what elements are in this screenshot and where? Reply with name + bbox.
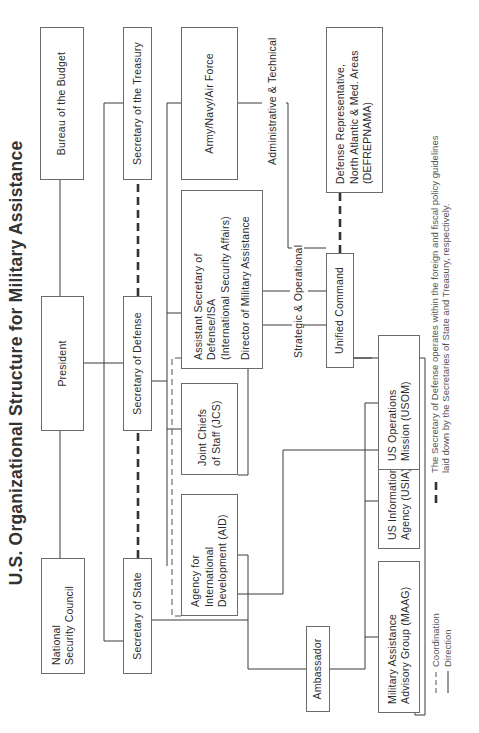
box-agency-for-international-development: Agency for International Development (AI…: [181, 494, 238, 616]
box-secretary-of-state: Secretary of State: [123, 558, 152, 674]
dash-coordination: [172, 358, 181, 616]
label-strategic-operational: Strategic & Operational: [292, 242, 304, 361]
box-president: President: [41, 296, 84, 431]
box-ambassador: Ambassador: [306, 626, 330, 712]
box-label: US Operations Mission (USOM): [386, 381, 413, 461]
box-label: Army/Navy/Air Force: [203, 53, 216, 154]
box-defrepnama: Defense Representative, North Atlantic &…: [326, 27, 383, 193]
box-label: Agency for International Development (AI…: [189, 514, 229, 607]
box-label: Military Assistance Advisory Group (MAAG…: [386, 587, 413, 704]
page-title: U.S. Organizational Structure for Milita…: [6, 103, 27, 623]
box-secretary-of-the-treasury: Secretary of the Treasury: [123, 27, 152, 180]
box-label: President: [56, 340, 69, 386]
legend-coordination: Coordination: [430, 613, 441, 667]
org-chart: U.S. Organizational Structure for Milita…: [0, 0, 479, 733]
box-label: Assistant Secretary of Defense/ISA (Inte…: [192, 216, 232, 360]
box-label: National Security Council: [50, 586, 77, 665]
box-assistant-secretary-of-defense-isa: Assistant Secretary of Defense/ISA (Inte…: [181, 190, 263, 369]
box-label: US Information Agency (USIA): [386, 467, 413, 540]
legend-direction: Direction: [442, 630, 453, 668]
box-joint-chiefs-of-staff: Joint Chiefs of Staff (JCS): [181, 383, 238, 475]
box-label: Ambassador: [311, 639, 324, 700]
box-label: Secretary of State: [131, 572, 144, 660]
box-secretary-of-defense: Secretary of Defense: [123, 296, 152, 431]
box-label-director-military-assistance: Director of Military Assistance: [239, 216, 252, 360]
legend-direction-label: Direction: [442, 630, 453, 668]
box-army-navy-air-force: Army/Navy/Air Force: [181, 27, 238, 180]
box-label: Joint Chiefs of Staff (JCS): [196, 400, 223, 466]
box-military-assistance-advisory-group: Military Assistance Advisory Group (MAAG…: [378, 561, 420, 713]
label-administrative-technical: Administrative & Technical: [266, 34, 278, 168]
box-bureau-of-the-budget: Bureau of the Budget: [40, 27, 84, 180]
box-us-operations-mission: US Operations Mission (USOM): [378, 335, 420, 470]
box-label: Unified Command: [333, 267, 346, 354]
box-label: Secretary of the Treasury: [131, 42, 144, 165]
box-national-security-council: National Security Council: [41, 558, 85, 674]
box-label: Secretary of Defense: [131, 312, 144, 415]
box-label: Bureau of the Budget: [55, 52, 68, 155]
legend-policy-note: The Secretary of Defense operates within…: [430, 136, 452, 473]
box-label: Defense Representative, North Atlantic &…: [334, 50, 374, 184]
legend-coordination-label: Coordination: [430, 613, 441, 667]
box-unified-command: Unified Command: [326, 253, 354, 368]
